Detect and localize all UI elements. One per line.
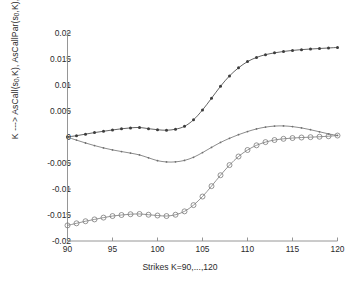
data-point-marker bbox=[273, 51, 276, 54]
data-point-marker bbox=[309, 48, 312, 51]
data-point-marker bbox=[220, 142, 222, 144]
data-point-marker bbox=[76, 139, 78, 141]
data-point-marker bbox=[111, 128, 114, 131]
data-point-marker bbox=[327, 46, 330, 49]
data-point-marker bbox=[336, 46, 339, 49]
data-point-marker bbox=[237, 66, 240, 69]
data-point-marker bbox=[256, 128, 258, 130]
data-point-marker bbox=[183, 125, 186, 128]
data-point-marker bbox=[102, 130, 105, 133]
data-point-marker bbox=[238, 134, 240, 136]
data-point-marker bbox=[319, 131, 321, 133]
plot-canvas bbox=[0, 0, 360, 282]
chart-figure: K ---> AsCall(s0,K), AsCallPar(s0,K), In… bbox=[0, 0, 360, 282]
data-point-marker bbox=[310, 129, 312, 131]
data-point-marker bbox=[193, 156, 195, 158]
series-line bbox=[68, 47, 338, 136]
data-point-marker bbox=[85, 142, 87, 144]
data-point-marker bbox=[120, 127, 123, 130]
data-point-marker bbox=[210, 97, 213, 100]
data-point-marker bbox=[264, 53, 267, 56]
data-point-marker bbox=[112, 149, 114, 151]
data-point-marker bbox=[184, 160, 186, 162]
series-1 bbox=[66, 46, 339, 138]
data-point-marker bbox=[175, 161, 177, 163]
data-point-marker bbox=[201, 108, 204, 111]
data-point-marker bbox=[274, 125, 276, 127]
data-point-marker bbox=[291, 49, 294, 52]
data-point-marker bbox=[265, 126, 267, 128]
data-point-marker bbox=[121, 151, 123, 153]
data-point-marker bbox=[318, 47, 321, 50]
data-point-marker bbox=[165, 129, 168, 132]
data-point-marker bbox=[283, 125, 285, 127]
data-point-marker bbox=[166, 161, 168, 163]
data-point-marker bbox=[211, 147, 213, 149]
data-point-marker bbox=[139, 154, 141, 156]
data-point-marker bbox=[246, 60, 249, 63]
data-point-marker bbox=[157, 160, 159, 162]
data-point-marker bbox=[67, 136, 69, 138]
data-point-marker bbox=[174, 128, 177, 131]
data-point-marker bbox=[94, 145, 96, 147]
data-point-marker bbox=[282, 50, 285, 53]
series-line bbox=[68, 126, 338, 162]
data-point-marker bbox=[228, 74, 231, 77]
data-point-marker bbox=[75, 134, 78, 137]
data-point-marker bbox=[156, 128, 159, 131]
data-point-marker bbox=[148, 157, 150, 159]
data-point-marker bbox=[247, 131, 249, 133]
data-point-marker bbox=[300, 48, 303, 51]
data-point-marker bbox=[255, 56, 258, 59]
data-point-marker bbox=[147, 127, 150, 130]
data-point-marker bbox=[130, 152, 132, 154]
data-point-marker bbox=[229, 137, 231, 139]
series-3 bbox=[65, 133, 340, 228]
data-point-marker bbox=[292, 126, 294, 128]
data-point-marker bbox=[192, 118, 195, 121]
data-point-marker bbox=[301, 127, 303, 129]
data-point-marker bbox=[202, 152, 204, 154]
data-point-marker bbox=[129, 126, 132, 129]
data-point-marker bbox=[103, 147, 105, 149]
data-point-marker bbox=[93, 131, 96, 134]
data-point-marker bbox=[138, 126, 141, 129]
data-point-marker bbox=[84, 133, 87, 136]
data-point-marker bbox=[219, 85, 222, 88]
